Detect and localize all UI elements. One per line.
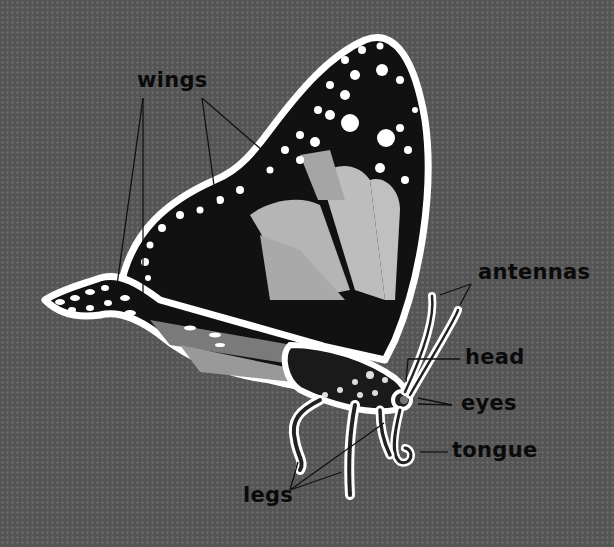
label-tongue: tongue bbox=[452, 440, 537, 461]
label-legs: legs bbox=[243, 485, 293, 506]
legs-leader-2 bbox=[290, 472, 342, 490]
label-antennas: antennas bbox=[478, 262, 590, 283]
body bbox=[285, 345, 411, 411]
label-head: head bbox=[465, 347, 525, 368]
legs-shapes bbox=[294, 400, 390, 495]
antennae bbox=[405, 296, 458, 395]
label-wings: wings bbox=[137, 70, 208, 91]
tongue-shape bbox=[394, 410, 411, 463]
label-eyes: eyes bbox=[461, 393, 517, 414]
